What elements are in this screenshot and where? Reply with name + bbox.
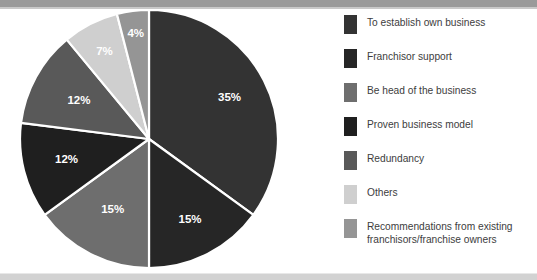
legend-item-label: Franchisor support [367, 48, 452, 64]
legend-item[interactable]: Be head of the business [344, 82, 534, 116]
pie-slice-group [20, 10, 278, 268]
legend-color-swatch [344, 117, 357, 136]
legend-color-swatch [344, 219, 357, 238]
pie-slice-value-label: 12% [55, 153, 78, 165]
chart-page: 35%15%15%12%12%7%4% To establish own bus… [0, 0, 537, 280]
legend-item-label: To establish own business [367, 14, 485, 30]
legend-item-label: Be head of the business [367, 82, 476, 98]
pie-chart: 35%15%15%12%12%7%4% [18, 8, 280, 270]
legend-item[interactable]: Others [344, 184, 534, 218]
legend-item[interactable]: To establish own business [344, 14, 534, 48]
chart-legend: To establish own businessFranchisor supp… [344, 14, 534, 252]
legend-item[interactable]: Redundancy [344, 150, 534, 184]
legend-color-swatch [344, 15, 357, 34]
legend-color-swatch [344, 185, 357, 204]
legend-item-label: Recommendations from existing franchisor… [367, 218, 513, 246]
top-divider-bar [0, 0, 537, 7]
pie-slice-value-label: 4% [127, 27, 144, 39]
legend-color-swatch [344, 83, 357, 102]
legend-item[interactable]: Franchisor support [344, 48, 534, 82]
pie-slice-value-label: 12% [67, 94, 90, 106]
legend-item[interactable]: Proven business model [344, 116, 534, 150]
pie-slice-value-label: 7% [96, 45, 113, 57]
legend-item-label: Proven business model [367, 116, 473, 132]
pie-slice-value-label: 15% [101, 203, 124, 215]
legend-item[interactable]: Recommendations from existing franchisor… [344, 218, 534, 252]
pie-slice-value-label: 15% [178, 213, 201, 225]
legend-item-label: Redundancy [367, 150, 424, 166]
legend-color-swatch [344, 151, 357, 170]
legend-color-swatch [344, 49, 357, 68]
bottom-divider-bar [0, 274, 537, 280]
legend-item-label: Others [367, 184, 398, 200]
pie-slice-value-label: 35% [218, 91, 241, 103]
pie-chart-svg: 35%15%15%12%12%7%4% [18, 8, 280, 270]
